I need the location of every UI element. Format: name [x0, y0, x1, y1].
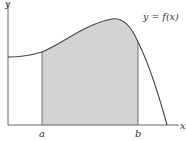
lower-bound-label: a: [39, 128, 45, 139]
integral-diagram: y x y = f(x) a b: [0, 0, 186, 141]
x-axis-label: x: [180, 120, 186, 131]
shaded-area-region: [42, 19, 138, 125]
y-axis-label: y: [4, 0, 11, 9]
upper-bound-label: b: [135, 128, 141, 139]
curve-label: y = f(x): [142, 11, 179, 22]
